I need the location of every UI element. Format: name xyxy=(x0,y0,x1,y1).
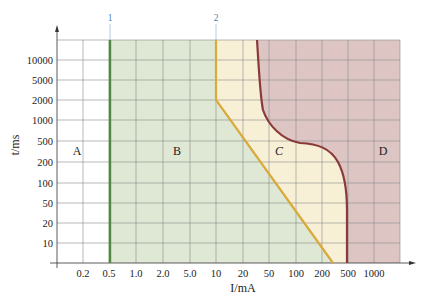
y-tick: 500 xyxy=(37,136,53,147)
y-axis-arrow-icon xyxy=(55,25,59,32)
region-a-fill xyxy=(57,40,110,263)
region-c-label: C xyxy=(275,144,284,158)
y-tick: 10 xyxy=(43,238,54,249)
x-tick: 500 xyxy=(340,268,356,279)
x-tick-labels: 0.2 0.5 1.0 2.0 5.0 10 20 50 100 200 500… xyxy=(76,268,384,279)
x-tick: 5.0 xyxy=(183,268,196,279)
y-tick: 50 xyxy=(43,198,54,209)
x-tick: 50 xyxy=(264,268,275,279)
x-tick: 20 xyxy=(238,268,249,279)
x-axis-arrow-icon xyxy=(409,261,416,265)
y-tick: 100 xyxy=(37,178,53,189)
y-tick: 200 xyxy=(37,157,53,168)
region-b-label: B xyxy=(173,144,181,158)
y-tick: 20 xyxy=(43,218,54,229)
y-tick: 10000 xyxy=(27,55,53,66)
x-axis-label: I/mA xyxy=(230,281,256,295)
curve-1-label: 1 xyxy=(108,13,113,23)
x-tick: 0.2 xyxy=(76,268,89,279)
curve-2-label: 2 xyxy=(214,13,219,23)
y-tick: 1000 xyxy=(32,115,53,126)
x-tick: 0.5 xyxy=(102,268,115,279)
y-tick-labels: 10000 5000 2000 1000 500 200 100 50 20 1… xyxy=(27,55,53,249)
x-tick: 10 xyxy=(211,268,222,279)
x-tick: 200 xyxy=(314,268,330,279)
region-d-label: D xyxy=(379,144,388,158)
x-tick: 100 xyxy=(288,268,304,279)
x-tick: 1.0 xyxy=(129,268,142,279)
x-tick: 1000 xyxy=(364,268,385,279)
chart-canvas: 1 2 A B C D 10000 5000 2000 1000 500 200… xyxy=(0,0,426,301)
region-a-label: A xyxy=(73,144,82,158)
y-tick: 2000 xyxy=(32,95,53,106)
y-tick: 5000 xyxy=(32,75,53,86)
y-axis-label: t/ms xyxy=(8,134,22,155)
x-tick: 2.0 xyxy=(156,268,169,279)
